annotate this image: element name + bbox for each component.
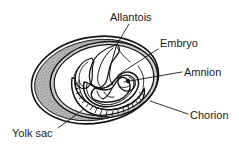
label-allantois: Allantois	[110, 11, 152, 23]
label-embryo: Embryo	[160, 37, 198, 49]
leader-chorion	[150, 101, 188, 114]
label-yolk-sac: Yolk sac	[12, 127, 53, 139]
label-chorion: Chorion	[190, 109, 229, 121]
amniotic-egg-diagram: Allantois Embryo Amnion Chorion Yolk sac	[0, 0, 239, 144]
label-amnion: Amnion	[184, 66, 221, 78]
egg-diagram-canvas: Allantois Embryo Amnion Chorion Yolk sac	[0, 0, 239, 144]
